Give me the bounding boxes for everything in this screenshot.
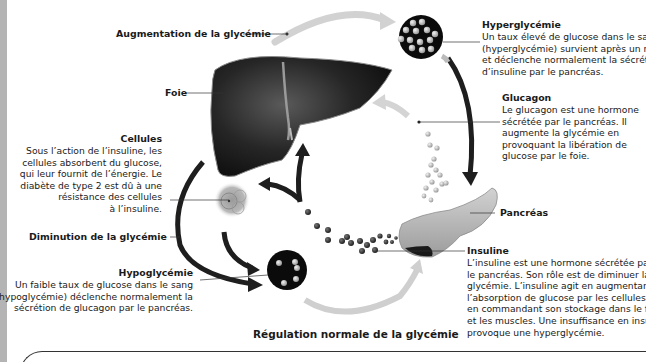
diagram-title: Régulation normale de la glycémie — [253, 328, 459, 340]
glucagon-line: augmente la glycémie en — [502, 127, 639, 139]
insuline-line: l’absorption de glucose par les cellules… — [467, 292, 646, 304]
hypoglycemia-blood-sample — [267, 250, 307, 290]
block-insuline: Insuline L’insuline est une hormone sécr… — [467, 245, 646, 338]
insuline-title: Insuline — [467, 245, 646, 257]
cellules-line: à l’insuline. — [20, 203, 162, 215]
insulin-molecules — [305, 209, 398, 254]
insuline-line: et les muscles. Une insuffisance en insu… — [467, 315, 646, 327]
glucagon-line: provoquant la libération de — [502, 139, 639, 151]
insuline-line: provoque une hyperglycémie. — [467, 327, 646, 339]
hypoglycemie-line: sécrétion de glucagon par le pancréas. — [0, 302, 193, 314]
hypoglycemie-title: Hypoglycémie — [0, 267, 193, 279]
block-glucagon: Glucagon Le glucagon est une hormone séc… — [502, 92, 639, 162]
next-section-box-edge — [20, 351, 646, 362]
insuline-line: en commandant son stockage dans le foie — [467, 303, 646, 315]
cellules-title: Cellules — [20, 133, 162, 145]
glucagon-title: Glucagon — [502, 92, 639, 104]
arrow-cells-to-hypo-icon — [224, 232, 260, 276]
block-hyperglycemie: Hyperglycémie Un taux élevé de glucose d… — [482, 19, 646, 77]
insuline-line: le pancréas. Son rôle est de diminuer la — [467, 269, 646, 281]
hyperglycemia-blood-sample — [398, 15, 443, 59]
hyperglycemie-line: (hyperglycémie) survient après un repas — [482, 43, 646, 55]
cellules-line: Sous l’action de l’insuline, les — [20, 145, 162, 157]
glucagon-line: glucose par le foie. — [502, 150, 639, 162]
label-foie: Foie — [165, 87, 187, 99]
label-pancreas: Pancréas — [500, 207, 548, 219]
label-diminution: Diminution de la glycémie — [29, 231, 167, 243]
hyperglycemie-line: Un taux élevé de glucose dans le sang — [482, 31, 646, 43]
arrow-hypo-to-pancreas-icon — [305, 259, 423, 312]
hyperglycemie-line: d’insuline par le pancréas. — [482, 66, 646, 78]
insuline-line: glycémie. L’insuline agit en augmentant — [467, 280, 646, 292]
cellules-line: diabète de type 2 est dû à une — [20, 180, 162, 192]
insuline-line: L’insuline est une hormone sécrétée par — [467, 257, 646, 269]
hyperglycemie-title: Hyperglycémie — [482, 19, 646, 31]
hypoglycemie-line: (hypoglycémie) déclenche normalement la — [0, 291, 193, 303]
block-hypoglycemie: Hypoglycémie Un faible taux de glucose d… — [0, 267, 193, 314]
cellules-line: cellules absorbent du glucose, — [20, 157, 162, 169]
cellules-line: résistance des cellules — [20, 191, 162, 203]
hyperglycemie-line: et déclenche normalement la sécrétion — [482, 54, 646, 66]
arrow-glucagon-to-liver-icon — [372, 94, 408, 116]
arrow-hyper-to-pancreas-icon — [442, 56, 478, 186]
label-augmentation: Augmentation de la glycémie — [116, 28, 271, 40]
cellules-line: qui leur fournit de l’énergie. Le — [20, 168, 162, 180]
block-cellules: Cellules Sous l’action de l’insuline, le… — [20, 133, 162, 215]
hypoglycemie-line: Un faible taux de glucose dans le sang — [0, 279, 193, 291]
glucagon-molecules — [417, 120, 448, 202]
glucagon-line: sécrétée par le pancréas. Il — [502, 116, 639, 128]
arrow-augmentation-icon — [275, 12, 396, 42]
glucagon-line: Le glucagon est une hormone — [502, 104, 639, 116]
